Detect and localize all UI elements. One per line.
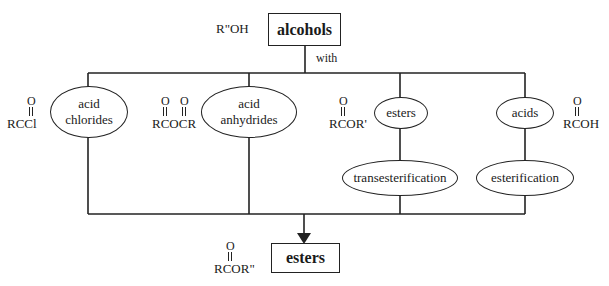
with-label: with <box>316 51 337 65</box>
acid-anhydrides-node: acid anhydrides <box>201 86 297 138</box>
esters-product-label: esters <box>286 249 325 267</box>
acid-chloride-formula: O RCCl <box>7 95 47 135</box>
alcohol-formula: R"OH <box>216 22 249 36</box>
acid-chlorides-node: acid chlorides <box>50 86 128 138</box>
ester-reagent-formula: O RCOR' <box>329 95 374 135</box>
alcohols-box: alcohols <box>268 13 341 46</box>
esters-product-box: esters <box>271 243 340 273</box>
esters-reagent-node: esters <box>374 97 428 129</box>
alcohols-label: alcohols <box>277 21 332 39</box>
product-ester-formula: O RCOR" <box>214 240 264 280</box>
acid-formula: O RCOH <box>563 95 608 135</box>
acid-anhydride-formula: O O RCOCR <box>150 95 200 135</box>
esterification-node: esterification <box>476 160 574 196</box>
acids-node: acids <box>496 97 554 129</box>
transesterification-node: transesterification <box>342 160 458 196</box>
